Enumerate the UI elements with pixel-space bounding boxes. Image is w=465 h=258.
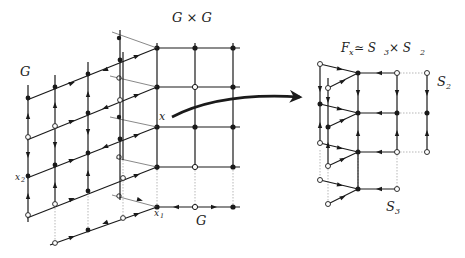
svg-text:1: 1 (160, 212, 164, 220)
svg-text:S: S (437, 74, 446, 89)
label-x2: x 2 (15, 172, 25, 184)
slanted-lines (27, 48, 157, 245)
diagram-canvas: G × G G G x x 1 x 2 F x ≃ S 3 × S 2 (0, 0, 465, 258)
label-S2: S 2 (437, 74, 451, 91)
front-grid (154, 43, 240, 210)
svg-text:2: 2 (419, 48, 425, 57)
label-x1: x 1 (154, 208, 164, 220)
product-graph: G × G G G x x 1 x 2 (15, 10, 240, 245)
converging-lines (110, 32, 157, 207)
svg-text:2: 2 (20, 176, 25, 184)
label-S3: S 3 (386, 199, 400, 216)
fiber-map-arrow (172, 96, 300, 117)
label-G-left: G (20, 64, 30, 79)
label-G-bottom: G (196, 213, 206, 228)
svg-text:3: 3 (395, 207, 400, 216)
svg-text:x: x (154, 208, 159, 218)
svg-text:≃ S: ≃ S (354, 41, 376, 55)
svg-text:× S: × S (389, 41, 411, 55)
label-x: x (159, 110, 166, 123)
svg-text:S: S (386, 199, 395, 214)
svg-text:2: 2 (445, 82, 451, 91)
svg-text:x: x (15, 172, 20, 182)
label-fiber: F x ≃ S 3 × S 2 (340, 41, 425, 57)
fiber-graph: F x ≃ S 3 × S 2 (318, 41, 452, 216)
label-product: G × G (172, 10, 212, 25)
